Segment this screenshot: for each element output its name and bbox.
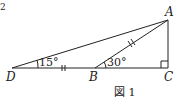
point-label-c: C (164, 70, 173, 84)
triangle-diagram: 2 15° 30° A D B C 図 1 (0, 0, 183, 100)
point-label-d: D (5, 70, 16, 84)
figure-caption: 図 1 (114, 86, 136, 99)
angle-arc-b (104, 62, 106, 68)
right-angle-mark (161, 61, 168, 68)
segment-da (12, 20, 168, 68)
angle-arc-d (37, 60, 38, 68)
cutoff-glyph: 2 (0, 2, 6, 12)
point-label-b: B (88, 70, 98, 84)
point-label-a: A (164, 5, 174, 19)
segment-ba (95, 20, 168, 68)
angle-label-d: 15° (39, 56, 59, 69)
angle-label-b: 30° (107, 56, 127, 69)
